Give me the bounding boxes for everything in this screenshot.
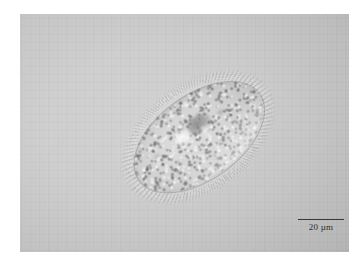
figure-root: 20 µm xyxy=(0,0,362,267)
scale-bar-line xyxy=(298,219,344,220)
ciliate-cell xyxy=(96,37,300,238)
scale-bar-label: 20 µm xyxy=(297,222,345,233)
micrograph-image: 20 µm xyxy=(20,14,349,252)
scale-bar: 20 µm xyxy=(297,219,345,233)
